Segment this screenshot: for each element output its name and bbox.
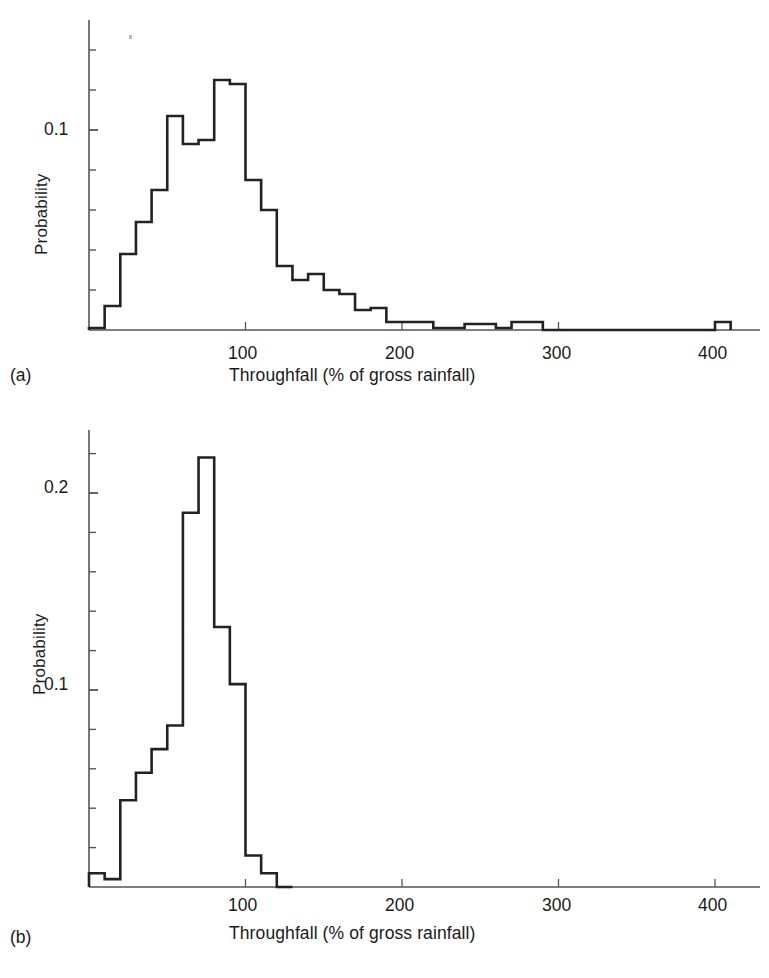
x-tick-label-a-200: 200 bbox=[385, 343, 414, 364]
y-tick-label-a-0.1: 0.1 bbox=[44, 119, 68, 140]
y-tick-label-b-0.1: 0.1 bbox=[44, 674, 68, 695]
x-tick-label-a-300: 300 bbox=[542, 343, 571, 364]
figure-throughfall-histograms: Probability 0.1 100 200 300 400 Throughf… bbox=[0, 0, 769, 978]
y-tick-label-b-0.2: 0.2 bbox=[44, 477, 68, 498]
x-tick-label-b-200: 200 bbox=[385, 895, 414, 916]
x-tick-label-a-400: 400 bbox=[698, 343, 727, 364]
panel-b: Probability 0.2 0.1 100 200 300 400 Thro… bbox=[0, 400, 769, 978]
y-axis-label-a: Probability bbox=[32, 173, 52, 255]
x-tick-label-a-100: 100 bbox=[228, 343, 257, 364]
panel-a: Probability 0.1 100 200 300 400 Throughf… bbox=[0, 0, 769, 400]
x-tick-label-b-100: 100 bbox=[228, 895, 257, 916]
panel-tag-b: (b) bbox=[10, 927, 31, 948]
histogram-plot-a bbox=[0, 0, 769, 400]
x-axis-label-a: Throughfall (% of gross rainfall) bbox=[229, 365, 475, 386]
scan-artifact-speck bbox=[129, 35, 132, 39]
x-tick-label-b-400: 400 bbox=[698, 895, 727, 916]
histogram-plot-b bbox=[0, 400, 769, 978]
x-axis-label-b: Throughfall (% of gross rainfall) bbox=[229, 923, 475, 944]
x-tick-label-b-300: 300 bbox=[542, 895, 571, 916]
panel-tag-a: (a) bbox=[10, 365, 31, 386]
